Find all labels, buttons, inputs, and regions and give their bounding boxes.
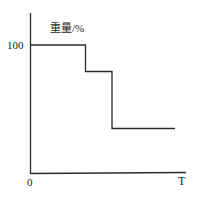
origin-label: 0: [27, 177, 33, 188]
y-tick-100: 100: [7, 40, 24, 51]
y-axis-label: 重量/%: [50, 23, 84, 34]
x-axis-label: T: [178, 175, 185, 187]
chart-plot: [0, 0, 199, 198]
mass-step-line: [31, 45, 175, 129]
x-axis: [30, 173, 186, 174]
